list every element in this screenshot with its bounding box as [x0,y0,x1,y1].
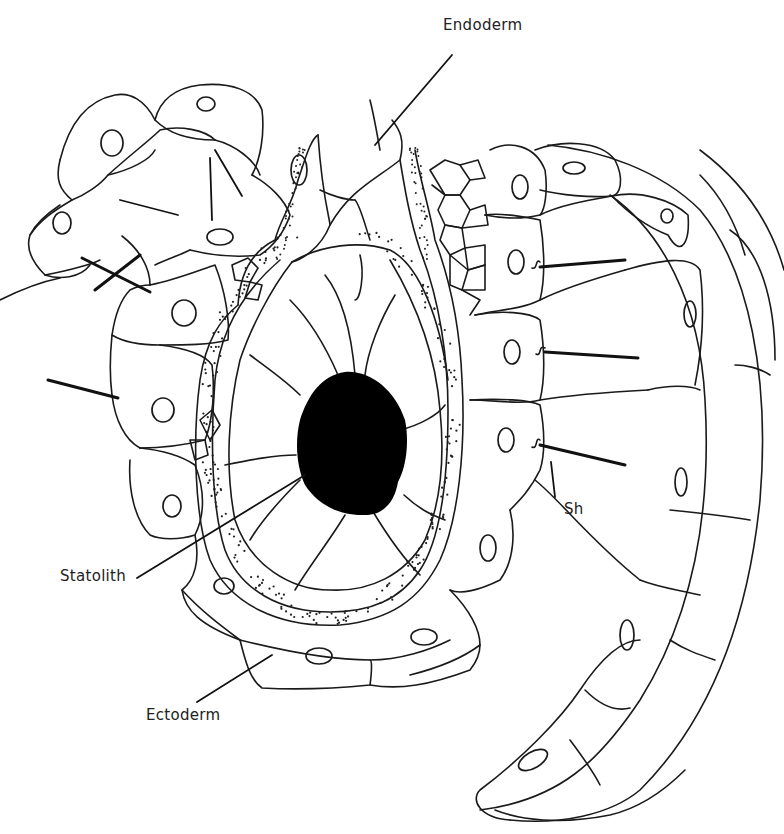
right-cell-column [410,143,648,675]
label-ectoderm: Ectoderm [146,706,220,724]
outer-right-tissue [476,145,784,821]
statocyst-diagram [0,0,784,834]
label-endoderm: Endoderm [443,16,522,34]
endoderm-leader [375,55,452,145]
endoderm-cell [292,100,402,262]
label-statolith: Statolith [60,567,126,585]
statolith [297,372,407,515]
label-sh: Sh [564,500,584,518]
ectoderm-leader [197,655,272,702]
sh-leader [551,462,555,497]
